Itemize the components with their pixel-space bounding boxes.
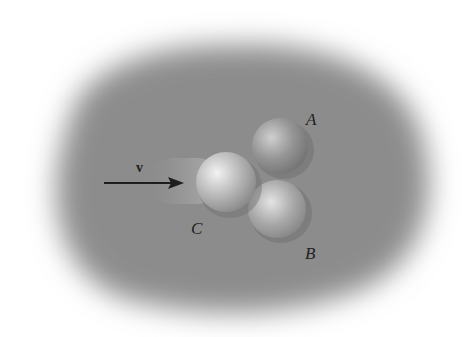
ball-a-label: A: [306, 110, 316, 130]
ball-b-label: B: [305, 244, 315, 264]
ball-c-label: C: [191, 219, 202, 239]
velocity-label: v: [136, 160, 143, 176]
collision-diagram: v A C B: [0, 0, 462, 337]
ball-c: [196, 152, 256, 212]
table-surface: [0, 0, 462, 337]
ball-a: [252, 118, 308, 174]
